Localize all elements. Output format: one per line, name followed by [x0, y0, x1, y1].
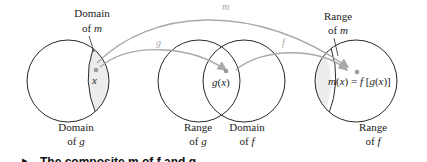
domain-of-f-label: Domain of f [229, 121, 265, 147]
svg-text:Range: Range [184, 121, 212, 133]
figure-caption: ▸ The composite m of f and g [22, 154, 196, 162]
range-of-m-label: Range of m [324, 10, 352, 56]
arrow-m-label: m [222, 1, 229, 12]
arrow-f-label: f [282, 37, 286, 48]
svg-text:of m: of m [328, 24, 348, 36]
range-of-f-label: Range of f [359, 121, 387, 147]
point-gx [224, 69, 229, 74]
arrow-m [97, 20, 348, 67]
x-label: x [91, 74, 97, 86]
svg-text:of g: of g [189, 135, 207, 147]
range-of-g-label: Range of g [184, 121, 212, 147]
svg-text:Domain: Domain [74, 7, 110, 19]
svg-text:Domain: Domain [58, 121, 94, 133]
svg-text:of m: of m [82, 22, 102, 34]
domain-of-m-label: Domain of m [74, 7, 110, 52]
svg-text:Range: Range [324, 10, 352, 22]
arrow-g [100, 50, 226, 70]
svg-text:of g: of g [67, 135, 85, 147]
point-mx [355, 70, 360, 75]
mx-label: m(x) = f [g(x)] [328, 75, 391, 88]
gx-label: g(x) [212, 76, 230, 89]
point-x [94, 68, 99, 73]
svg-text:Domain: Domain [229, 121, 265, 133]
svg-text:▸: ▸ [22, 154, 28, 162]
svg-text:Range: Range [359, 121, 387, 133]
domain-of-g-label: Domain of g [58, 121, 94, 147]
svg-text:of f: of f [366, 135, 383, 147]
composite-function-diagram: m g f x g(x) m(x) = f [g(x)] Domain of m… [0, 0, 427, 162]
arrow-g-label: g [156, 37, 161, 48]
svg-text:The composite m of f and g: The composite m of f and g [40, 155, 196, 162]
svg-text:of f: of f [240, 135, 257, 147]
